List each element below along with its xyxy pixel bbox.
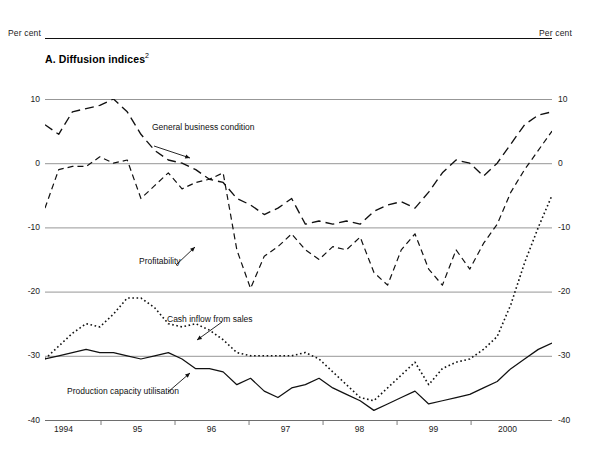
x-axis-label-2000: 2000	[488, 424, 528, 434]
chart-page: Per cent Per cent A. Diffusion indices2 …	[0, 0, 592, 461]
series-line-production-capacity-utilisation	[45, 343, 552, 410]
x-axis-label-96: 96	[192, 424, 232, 434]
y-axis-label-right--20: -20	[558, 286, 582, 296]
y-axis-label-left--20: -20	[18, 286, 40, 296]
y-axis-label-left--40: -40	[18, 415, 40, 425]
y-axis-label-right-10: 10	[558, 94, 582, 104]
y-axis-label-right--40: -40	[558, 415, 582, 425]
leader-general-business-condition-line	[154, 146, 190, 158]
y-axis-label-left--30: -30	[18, 350, 40, 360]
x-axis-label-1994: 1994	[44, 424, 84, 434]
leader-general-business-condition	[154, 146, 190, 159]
annotation-production-capacity-utilisation: Production capacity utilisation	[67, 386, 179, 396]
series-line-cash-inflow-from-sales	[45, 195, 552, 400]
y-axis-label-left-10: 10	[18, 94, 40, 104]
panel-title: A. Diffusion indices2	[45, 52, 149, 65]
chart-svg	[45, 99, 552, 426]
annotation-cash-inflow-from-sales: Cash inflow from sales	[167, 314, 253, 324]
annotation-general-business-condition: General business condition	[152, 122, 255, 132]
panel-title-text: A. Diffusion indices	[45, 53, 145, 65]
leader-general-business-condition-head	[185, 155, 190, 159]
x-axis-label-98: 98	[340, 424, 380, 434]
y-axis-label-right-0: 0	[558, 158, 582, 168]
percent-label-left: Per cent	[8, 28, 41, 38]
y-axis-label-right--30: -30	[558, 350, 582, 360]
y-axis-label-left--10: -10	[18, 222, 40, 232]
series-line-profitability	[45, 131, 552, 288]
plot-area	[45, 99, 552, 420]
x-axis-label-95: 95	[118, 424, 158, 434]
leader-cash-inflow-head	[197, 336, 202, 341]
percent-label-right: Per cent	[539, 28, 572, 38]
leader-cash-inflow	[197, 322, 222, 340]
annotation-profitability: Profitability	[139, 256, 181, 266]
y-axis-label-left-0: 0	[18, 158, 40, 168]
y-axis-label-right--10: -10	[558, 222, 582, 232]
x-axis-label-97: 97	[266, 424, 306, 434]
series-line-general-business-condition	[45, 99, 552, 224]
panel-title-footnote-marker: 2	[145, 52, 149, 59]
header-divider	[45, 38, 552, 39]
x-axis-label-99: 99	[414, 424, 454, 434]
